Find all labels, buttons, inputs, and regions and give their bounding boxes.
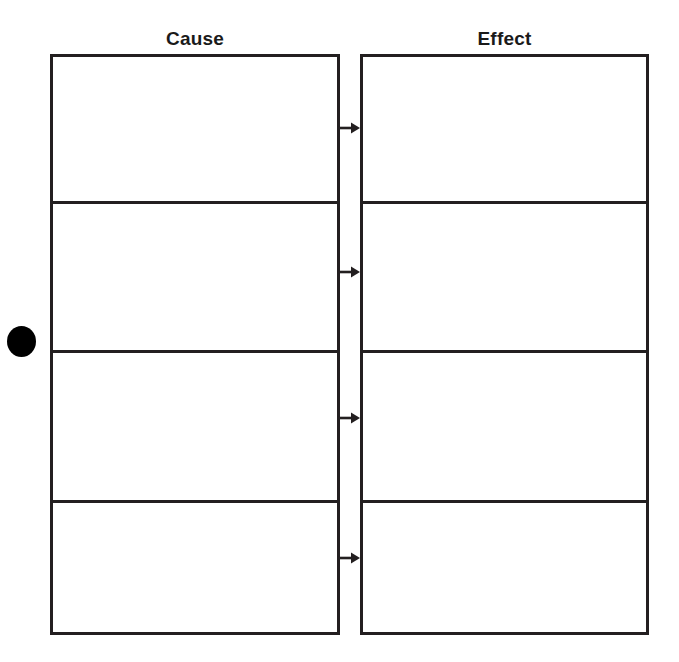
effect-cell-4-text[interactable] bbox=[363, 503, 646, 520]
arrow-right-icon bbox=[338, 264, 362, 280]
cause-cell-3[interactable] bbox=[53, 353, 337, 503]
cause-cell-2-text[interactable] bbox=[53, 204, 337, 221]
filled-circle-bullet-icon bbox=[7, 326, 36, 357]
column-heading-effect: Effect bbox=[360, 28, 649, 50]
arrow-right-icon bbox=[338, 550, 362, 566]
effect-cell-2-text[interactable] bbox=[363, 204, 646, 221]
cause-cell-2[interactable] bbox=[53, 204, 337, 353]
effect-cell-1[interactable] bbox=[363, 57, 646, 204]
cause-cell-4[interactable] bbox=[53, 503, 337, 632]
effect-cell-4[interactable] bbox=[363, 503, 646, 632]
effect-cell-2[interactable] bbox=[363, 204, 646, 353]
cause-cell-3-text[interactable] bbox=[53, 353, 337, 370]
cause-effect-organizer: Cause Effect bbox=[0, 0, 679, 662]
cause-cell-1[interactable] bbox=[53, 57, 337, 204]
cause-cell-1-text[interactable] bbox=[53, 57, 337, 74]
arrow-right-icon bbox=[338, 120, 362, 136]
column-heading-cause: Cause bbox=[50, 28, 340, 50]
effect-cell-3[interactable] bbox=[363, 353, 646, 503]
cause-column bbox=[50, 54, 340, 635]
effect-column bbox=[360, 54, 649, 635]
cause-cell-4-text[interactable] bbox=[53, 503, 337, 520]
arrow-right-icon bbox=[338, 410, 362, 426]
effect-cell-3-text[interactable] bbox=[363, 353, 646, 370]
effect-cell-1-text[interactable] bbox=[363, 57, 646, 74]
